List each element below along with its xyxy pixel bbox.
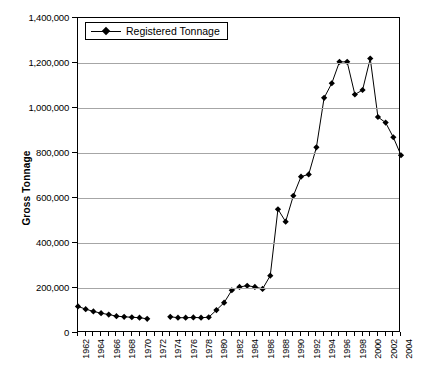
data-point-marker	[306, 171, 312, 177]
x-tick-label: 2000	[373, 339, 383, 359]
x-tick-mark	[177, 332, 178, 336]
gridline	[78, 153, 399, 154]
x-tick-label: 1976	[189, 339, 199, 359]
data-point-marker	[283, 219, 289, 225]
x-tick-mark	[192, 332, 193, 336]
x-tick-mark	[277, 332, 278, 336]
x-tick-label: 1980	[219, 339, 229, 359]
x-tick-label: 1988	[281, 339, 291, 359]
x-tick-label: 1994	[327, 339, 337, 359]
y-tick-label: 200,000	[36, 282, 69, 293]
data-point-marker	[236, 284, 242, 290]
chart-container: 0200,000400,000600,000800,0001,000,0001,…	[0, 0, 429, 376]
data-point-marker	[167, 314, 173, 320]
x-tick-mark	[369, 332, 370, 336]
y-tick-label: 1,400,000	[29, 12, 69, 23]
x-tick-mark	[246, 332, 247, 336]
chart-legend: Registered Tonnage	[85, 22, 228, 40]
x-tick-label: 1998	[358, 339, 368, 359]
gridline	[78, 243, 399, 244]
y-tick-label: 800,000	[36, 147, 69, 158]
x-tick-mark	[377, 332, 378, 336]
x-tick-mark	[400, 332, 401, 336]
data-point-marker	[136, 315, 142, 321]
x-tick-label: 1966	[112, 339, 122, 359]
x-tick-mark	[269, 332, 270, 336]
gridline	[78, 63, 399, 64]
x-tick-mark	[108, 332, 109, 336]
gridline	[78, 198, 399, 199]
legend-marker-icon	[91, 27, 121, 36]
x-tick-label: 1962	[81, 339, 91, 359]
x-tick-mark	[162, 332, 163, 336]
x-tick-mark	[223, 332, 224, 336]
x-tick-label: 1972	[158, 339, 168, 359]
data-point-marker	[129, 314, 135, 320]
data-point-marker	[113, 313, 119, 319]
x-tick-label: 1978	[204, 339, 214, 359]
data-point-marker	[352, 91, 358, 97]
data-point-marker	[252, 284, 258, 290]
y-tick-label: 1,200,000	[29, 57, 69, 68]
x-tick-mark	[77, 332, 78, 336]
x-tick-mark	[262, 332, 263, 336]
x-tick-label: 1974	[173, 339, 183, 359]
x-tick-label: 1984	[250, 339, 260, 359]
x-tick-mark	[338, 332, 339, 336]
x-tick-mark	[131, 332, 132, 336]
x-tick-mark	[392, 332, 393, 336]
data-point-marker	[144, 316, 150, 322]
x-tick-mark	[208, 332, 209, 336]
x-tick-mark	[292, 332, 293, 336]
x-tick-mark	[169, 332, 170, 336]
data-point-marker	[175, 315, 181, 321]
data-point-marker	[359, 87, 365, 93]
x-tick-mark	[139, 332, 140, 336]
x-tick-mark	[146, 332, 147, 336]
x-tick-mark	[200, 332, 201, 336]
x-tick-mark	[123, 332, 124, 336]
y-tick-label: 1,000,000	[29, 102, 69, 113]
x-tick-label: 1996	[342, 339, 352, 359]
x-tick-mark	[254, 332, 255, 336]
data-point-marker	[275, 206, 281, 212]
y-tick-label: 400,000	[36, 237, 69, 248]
x-tick-mark	[154, 332, 155, 336]
x-tick-label: 1982	[235, 339, 245, 359]
data-point-marker	[344, 59, 350, 65]
x-tick-mark	[115, 332, 116, 336]
x-tick-mark	[385, 332, 386, 336]
x-tick-label: 1970	[143, 339, 153, 359]
data-point-marker	[321, 95, 327, 101]
data-point-marker	[267, 273, 273, 279]
x-tick-label: 2004	[404, 339, 414, 359]
data-point-marker	[106, 311, 112, 317]
data-point-marker	[83, 306, 89, 312]
data-point-marker	[90, 308, 96, 314]
data-point-marker	[183, 315, 189, 321]
x-tick-mark	[231, 332, 232, 336]
data-point-marker	[121, 314, 127, 320]
x-tick-mark	[300, 332, 301, 336]
x-tick-label: 2002	[389, 339, 399, 359]
x-axis: 1962196419661968197019721974197619781980…	[77, 332, 400, 376]
y-axis-title: Gross Tonnage	[21, 128, 32, 248]
x-tick-mark	[354, 332, 355, 336]
x-tick-label: 1986	[266, 339, 276, 359]
data-point-marker	[329, 80, 335, 86]
x-tick-mark	[92, 332, 93, 336]
data-point-marker	[198, 315, 204, 321]
x-tick-label: 1968	[127, 339, 137, 359]
data-point-marker	[190, 314, 196, 320]
data-point-marker	[336, 59, 342, 65]
x-tick-mark	[323, 332, 324, 336]
y-axis: 0200,000400,000600,000800,0001,000,0001,…	[0, 0, 77, 376]
plot-area	[77, 17, 400, 332]
x-tick-mark	[308, 332, 309, 336]
y-tick-label: 600,000	[36, 192, 69, 203]
x-tick-mark	[331, 332, 332, 336]
data-point-marker	[98, 310, 104, 316]
data-series-registered-tonnage	[78, 18, 401, 333]
x-tick-mark	[362, 332, 363, 336]
x-tick-mark	[185, 332, 186, 336]
